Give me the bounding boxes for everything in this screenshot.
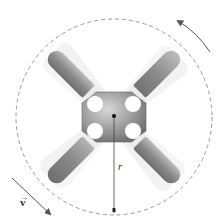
center-point	[112, 114, 116, 118]
radius-label: r	[118, 160, 122, 172]
velocity-arrow	[12, 178, 50, 214]
velocity-vector-mark: →	[20, 193, 28, 202]
rotation-arrow	[178, 21, 210, 52]
rotor-diagram	[0, 0, 223, 222]
